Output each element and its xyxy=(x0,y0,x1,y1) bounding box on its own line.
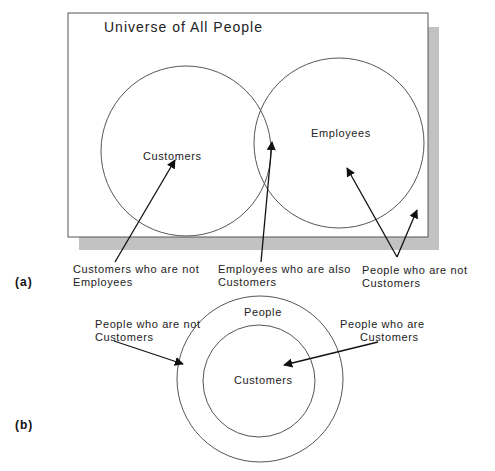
callout-b-people-not-customers-line1: People who are not xyxy=(95,318,201,330)
universe-title: Universe of All People xyxy=(104,19,263,35)
arrow-b-people-not-customers xyxy=(114,341,183,364)
employees-circle-label: Employees xyxy=(311,127,371,139)
people-circle-label: People xyxy=(244,306,282,318)
panel-label-b: (b) xyxy=(15,418,33,432)
callout-customers-not-employees-line2: Employees xyxy=(73,276,133,288)
universe-box xyxy=(68,13,428,237)
customers-inner-label: Customers xyxy=(234,374,293,386)
callout-employees-also-customers-line1: Employees who are also xyxy=(218,263,351,275)
callout-employees-also-customers-line2: Customers xyxy=(218,276,277,288)
callout-b-people-not-customers-line2: Customers xyxy=(95,331,154,343)
customers-circle-label: Customers xyxy=(143,150,202,162)
callout-people-not-customers-line2: Customers xyxy=(362,277,421,289)
arrow-b-people-are-customers xyxy=(284,342,378,365)
callout-people-not-customers-line1: People who are not xyxy=(362,264,468,276)
callout-b-people-are-customers-line2: Customers xyxy=(360,331,419,343)
panel-label-a: (a) xyxy=(15,275,33,289)
callout-b-people-are-customers-line1: People who are xyxy=(340,318,425,330)
callout-customers-not-employees-line1: Customers who are not xyxy=(73,263,199,275)
venn-diagram-figure: Universe of All People Customers Employe… xyxy=(0,0,495,471)
